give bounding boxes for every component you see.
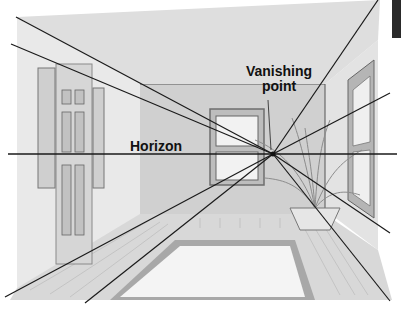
perspective-diagram: Horizon Vanishing point (0, 0, 401, 309)
horizon-label: Horizon (130, 139, 182, 154)
page-edge-marker (392, 0, 401, 38)
vanishing-point-label: Vanishing point (234, 64, 324, 94)
vanishing-point-label-line1: Vanishing (234, 64, 324, 79)
vanishing-point-label-line2: point (234, 79, 324, 94)
vanishing-point-dot (271, 152, 276, 157)
room-illustration (0, 0, 401, 309)
right-window (348, 60, 374, 218)
